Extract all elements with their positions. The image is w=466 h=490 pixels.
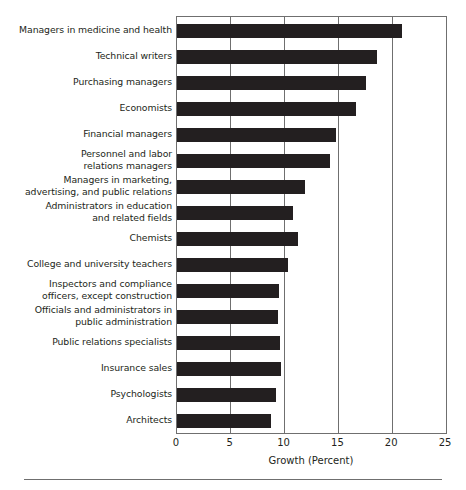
x-tick-label: 20 <box>371 437 411 449</box>
x-axis-title: Growth (Percent) <box>176 455 446 467</box>
bar <box>177 284 279 298</box>
category-label: Technical writers <box>0 50 172 61</box>
category-label: College and university teachers <box>0 258 172 269</box>
x-axis-tick-labels: 0510152025 <box>0 437 466 451</box>
x-tick-label: 5 <box>210 437 250 449</box>
gridline <box>392 17 393 433</box>
bar <box>177 24 402 38</box>
category-label: Insurance sales <box>0 362 172 373</box>
category-label: Financial managers <box>0 128 172 139</box>
bar <box>177 154 330 168</box>
footer-divider <box>24 479 442 480</box>
x-tick-label: 10 <box>264 437 304 449</box>
bar <box>177 206 293 220</box>
category-label: Officials and administrators in public a… <box>0 304 172 326</box>
bar <box>177 50 377 64</box>
category-label: Architects <box>0 414 172 425</box>
category-label: Administrators in education and related … <box>0 200 172 222</box>
bar <box>177 128 336 142</box>
category-label: Public relations specialists <box>0 336 172 347</box>
category-label: Inspectors and compliance officers, exce… <box>0 278 172 300</box>
category-label: Managers in marketing, advertising, and … <box>0 174 172 196</box>
bar <box>177 102 356 116</box>
bar <box>177 336 280 350</box>
bar <box>177 232 298 246</box>
x-tick-label: 25 <box>425 437 465 449</box>
x-tick-label: 0 <box>156 437 196 449</box>
plot-area <box>176 16 447 434</box>
bar-chart-figure: Managers in medicine and healthTechnical… <box>0 0 466 490</box>
category-label: Economists <box>0 102 172 113</box>
bar <box>177 362 281 376</box>
category-label: Managers in medicine and health <box>0 24 172 35</box>
category-label: Psychologists <box>0 388 172 399</box>
bar <box>177 76 366 90</box>
category-label: Purchasing managers <box>0 76 172 87</box>
category-label: Personnel and labor relations managers <box>0 148 172 170</box>
category-label: Chemists <box>0 232 172 243</box>
category-labels: Managers in medicine and healthTechnical… <box>0 16 172 432</box>
bar <box>177 310 278 324</box>
bar <box>177 180 305 194</box>
bar <box>177 388 276 402</box>
bar <box>177 414 271 428</box>
x-tick-label: 15 <box>317 437 357 449</box>
bar <box>177 258 288 272</box>
